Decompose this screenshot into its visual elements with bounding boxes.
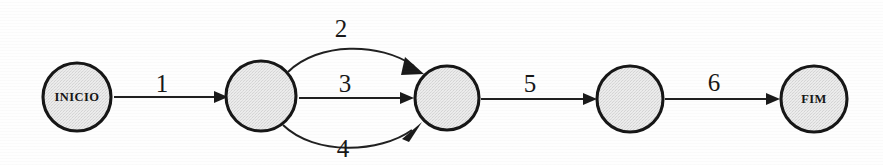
edge-2-curve: [288, 49, 414, 72]
node-4-circle[interactable]: [597, 66, 663, 132]
node-4[interactable]: [597, 66, 663, 132]
node-2[interactable]: [226, 61, 296, 131]
edge-2-arrowhead: [401, 57, 424, 75]
edge-2: 2: [288, 15, 424, 75]
node-3[interactable]: [415, 66, 479, 130]
edge-3-label: 3: [339, 70, 352, 97]
node-inicio-label: INICIO: [55, 90, 100, 104]
edge-4-label: 4: [337, 135, 350, 162]
node-2-circle[interactable]: [226, 61, 296, 131]
edge-4: 4: [283, 122, 422, 162]
node-fim[interactable]: FIM: [781, 66, 847, 132]
edge-5-label: 5: [524, 70, 537, 97]
edge-5: 5: [481, 70, 597, 105]
diagram-canvas: 1 2 3 4 5 6: [0, 0, 883, 165]
edge-1: 1: [114, 70, 228, 103]
edge-3-arrowhead: [400, 92, 414, 104]
edge-6-label: 6: [708, 69, 721, 96]
state-diagram: 1 2 3 4 5 6: [0, 0, 883, 165]
node-inicio[interactable]: INICIO: [43, 63, 111, 131]
edge-3: 3: [299, 70, 414, 104]
node-fim-label: FIM: [801, 92, 827, 106]
edge-1-label: 1: [156, 70, 169, 97]
edge-5-arrowhead: [583, 93, 597, 105]
edge-2-label: 2: [335, 15, 348, 42]
edge-6: 6: [665, 69, 780, 105]
node-3-circle[interactable]: [415, 66, 479, 130]
edge-4-arrowhead: [402, 122, 422, 142]
edge-6-arrowhead: [766, 93, 780, 105]
